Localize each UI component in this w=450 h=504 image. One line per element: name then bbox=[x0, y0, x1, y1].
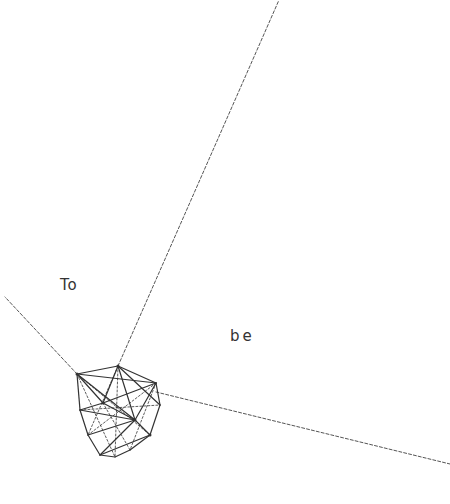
vertex-mark bbox=[76, 373, 79, 376]
ray-right bbox=[156, 392, 450, 464]
edge bbox=[80, 410, 88, 435]
edge bbox=[135, 420, 150, 435]
edge bbox=[150, 405, 160, 435]
edge bbox=[115, 450, 130, 457]
ray-left bbox=[5, 297, 77, 374]
edge bbox=[135, 383, 156, 420]
vertex-mark bbox=[149, 434, 152, 437]
projection-rays bbox=[5, 0, 450, 464]
vertex-mark bbox=[117, 365, 120, 368]
edge bbox=[77, 374, 135, 420]
ray-up bbox=[118, 0, 279, 366]
edge bbox=[77, 374, 156, 383]
vertex-mark bbox=[134, 419, 137, 422]
edge bbox=[103, 366, 118, 403]
edge bbox=[103, 383, 156, 403]
edge bbox=[77, 366, 118, 374]
edge bbox=[80, 403, 103, 410]
label-be: be bbox=[230, 327, 255, 345]
edge bbox=[100, 455, 115, 457]
edge bbox=[88, 435, 100, 455]
polyhedron-edges bbox=[77, 366, 160, 457]
label-to: To bbox=[60, 276, 78, 294]
hidden-edge bbox=[115, 366, 118, 457]
geometric-diagram bbox=[0, 0, 450, 504]
edge bbox=[77, 374, 103, 403]
vertex-mark bbox=[102, 402, 105, 405]
